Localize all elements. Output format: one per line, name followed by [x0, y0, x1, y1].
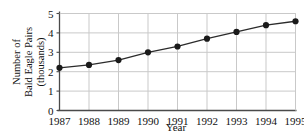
- y-axis-title-line: Number of: [11, 39, 22, 85]
- x-tick-label: 1987: [49, 115, 72, 127]
- x-tick-label: 1993: [226, 115, 249, 127]
- y-tick-label: 2: [48, 66, 54, 78]
- data-point-marker: [56, 65, 62, 71]
- data-point-marker: [86, 62, 92, 68]
- x-tick-label: 1992: [196, 115, 218, 127]
- y-axis-title-line: Bald Eagle Pairs: [23, 27, 34, 97]
- y-tick-label: 1: [48, 85, 54, 97]
- data-point-marker: [204, 36, 210, 42]
- x-tick-label: 1989: [108, 115, 131, 127]
- y-tick-label: 5: [48, 8, 54, 20]
- data-point-marker: [233, 29, 239, 35]
- data-point-marker: [145, 49, 151, 55]
- chart-figure: 012345 198719881989199019911992199319941…: [0, 0, 304, 135]
- x-tick-label: 1995: [285, 115, 305, 127]
- x-axis-title: Year: [166, 121, 187, 133]
- x-tick-label: 1988: [78, 115, 101, 127]
- data-point-marker: [174, 43, 180, 49]
- data-point-marker: [292, 18, 298, 24]
- y-tick-label: 4: [48, 27, 54, 39]
- data-point-marker: [115, 57, 121, 63]
- x-tick-label: 1994: [255, 115, 278, 127]
- y-tick-label: 3: [48, 46, 54, 58]
- x-tick-label: 1990: [137, 115, 160, 127]
- data-point-marker: [263, 22, 269, 28]
- y-axis-title-line: (thousands): [35, 37, 47, 86]
- line-chart: 012345 198719881989199019911992199319941…: [0, 0, 304, 135]
